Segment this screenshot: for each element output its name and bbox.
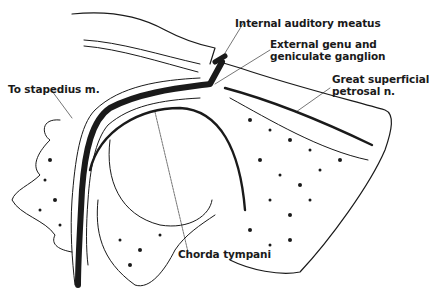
- mastoid-outline: [12, 120, 72, 252]
- leader-petrosal: [296, 88, 330, 112]
- label-great-superficial-petrosal: Great superficial petrosal n.: [332, 73, 429, 97]
- chorda-tympani-nerve: [90, 108, 245, 210]
- leader-stapedius: [52, 91, 72, 118]
- petrous-inner: [230, 98, 368, 160]
- leader-chorda: [155, 112, 188, 252]
- label-chorda-tympani: Chorda tympani: [178, 248, 271, 260]
- label-to-stapedius: To stapedius m.: [8, 83, 100, 95]
- lower-bone-outline: [97, 200, 215, 286]
- label-external-genu: External genu and geniculate ganglion: [270, 38, 385, 62]
- tympanic-cavity: [109, 140, 212, 226]
- label-internal-auditory-meatus: Internal auditory meatus: [235, 17, 381, 29]
- upper-canal-outer: [84, 40, 200, 64]
- dura-outline: [72, 13, 215, 64]
